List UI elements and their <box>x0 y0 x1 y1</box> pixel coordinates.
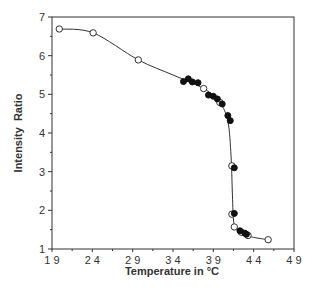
plot-frame <box>52 17 294 249</box>
filled-data-point <box>231 210 237 216</box>
y-axis-title: Intensity Ratio <box>12 93 24 172</box>
y-axis: 1234567 <box>39 11 52 255</box>
y-tick-label: 1 <box>39 243 45 255</box>
intensity-ratio-chart: 1 92 42 93 43 94 44 9 1234567 Temperatur… <box>0 0 312 294</box>
open-data-point <box>231 224 237 230</box>
y-tick-label: 3 <box>39 166 45 178</box>
filled-data-point <box>243 231 249 237</box>
filled-data-point <box>231 165 237 171</box>
filled-circle-points <box>180 76 249 237</box>
open-data-point <box>90 30 96 36</box>
open-circle-points <box>56 26 271 243</box>
x-axis: 1 92 42 93 43 94 44 9 <box>44 249 301 266</box>
y-tick-label: 4 <box>39 127 45 139</box>
filled-data-point <box>227 118 233 124</box>
filled-data-point <box>189 79 195 85</box>
x-tick-label: 1 9 <box>44 254 59 266</box>
y-tick-label: 5 <box>39 88 45 100</box>
y-tick-label: 7 <box>39 11 45 23</box>
fit-curve <box>59 29 268 240</box>
plot-border <box>52 17 294 249</box>
open-data-point <box>135 57 141 63</box>
x-tick-label: 2 4 <box>85 254 100 266</box>
x-tick-label: 4 4 <box>246 254 261 266</box>
filled-data-point <box>214 96 220 102</box>
x-tick-label: 4 9 <box>286 254 301 266</box>
open-data-point <box>265 237 271 243</box>
x-axis-title: Temperature in °C <box>125 265 219 277</box>
open-data-point <box>56 26 62 32</box>
y-tick-label: 2 <box>39 204 45 216</box>
filled-data-point <box>195 80 201 86</box>
open-data-point <box>200 85 206 91</box>
filled-data-point <box>219 101 225 107</box>
y-tick-label: 6 <box>39 50 45 62</box>
